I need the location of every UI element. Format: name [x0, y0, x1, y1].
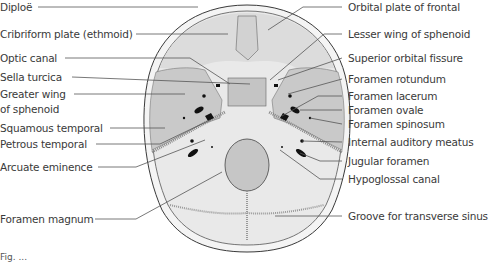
label-foramen-magnum: Foramen magnum	[0, 213, 94, 225]
label-foramen-spinosum: Foramen spinosum	[348, 118, 445, 130]
sella-turcica	[228, 78, 266, 106]
label-cribriform-plate: Cribriform plate (ethmoid)	[0, 28, 133, 40]
foramen-magnum	[225, 139, 269, 191]
label-diploe: Diploë	[0, 1, 32, 13]
label-squamous-temporal: Squamous temporal	[0, 122, 103, 134]
label-foramen-ovale: Foramen ovale	[348, 104, 423, 116]
label-arcuate-eminence: Arcuate eminence	[0, 161, 92, 173]
label-jugular-foramen: Jugular foramen	[348, 155, 429, 167]
label-hypoglossal-canal: Hypoglossal canal	[348, 173, 440, 185]
figure-caption-fragment: Fig. ...	[0, 252, 27, 262]
label-sella-turcica: Sella turcica	[0, 71, 62, 83]
label-foramen-rotundum: Foramen rotundum	[348, 73, 446, 85]
label-optic-canal: Optic canal	[0, 52, 57, 64]
label-foramen-lacerum: Foramen lacerum	[348, 90, 437, 102]
label-superior-orbital-fissure: Superior orbital fissure	[348, 52, 463, 64]
label-groove-transverse-sinus: Groove for transverse sinus	[348, 210, 488, 222]
label-greater-wing: Greater wing	[0, 88, 66, 100]
label-internal-auditory-meatus: Internal auditory meatus	[348, 136, 473, 148]
label-lesser-wing: Lesser wing of sphenoid	[348, 28, 470, 40]
label-orbital-plate: Orbital plate of frontal	[348, 1, 460, 13]
label-of-sphenoid: of sphenoid	[0, 103, 59, 115]
label-petrous-temporal: Petrous temporal	[0, 138, 87, 150]
